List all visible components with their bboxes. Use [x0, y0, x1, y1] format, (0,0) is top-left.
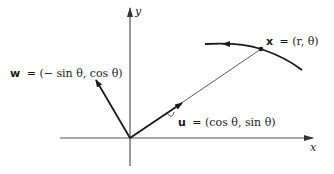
point-x-name: x — [266, 35, 273, 48]
u-vector-formula: = (cos θ, sin θ) — [192, 116, 275, 129]
u-vector-name: u — [178, 116, 186, 129]
w-vector-label: w = (− sin θ, cos θ) — [10, 67, 123, 80]
w-vector-formula: = (− sin θ, cos θ) — [27, 67, 123, 80]
x-axis-label: x — [310, 141, 317, 154]
w-vector-name: w — [10, 67, 20, 80]
w-vector — [96, 80, 130, 138]
u-vector-label: u = (cos θ, sin θ) — [178, 116, 276, 129]
point-x — [259, 47, 264, 52]
u-vector — [130, 103, 182, 138]
point-x-label: x = (r, θ) — [266, 35, 319, 48]
y-axis-label: y — [134, 5, 142, 18]
curve-direction-arrow-icon — [222, 41, 230, 47]
point-x-formula: = (r, θ) — [280, 35, 319, 48]
polar-basis-diagram: x y x = (r, θ) w = (− sin θ, cos θ) u = … — [0, 0, 334, 174]
